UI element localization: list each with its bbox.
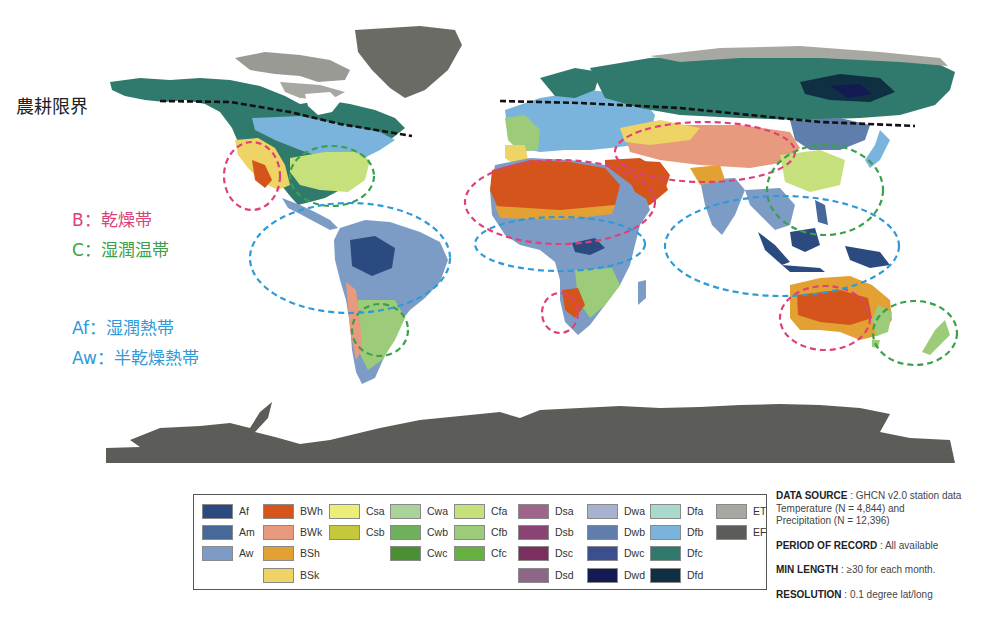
legend-label: Dfa	[687, 505, 703, 517]
legend-item-bsh: BSh	[263, 545, 320, 561]
legend-item-ef: EF	[716, 524, 766, 540]
legend-item-bwh: BWh	[263, 503, 323, 519]
legend-label: Dfd	[687, 569, 703, 581]
legend-label: Dsb	[555, 526, 574, 538]
legend-swatch	[202, 504, 233, 519]
legend-item-dfa: Dfa	[650, 503, 703, 519]
legend-item-dsb: Dsb	[518, 524, 574, 540]
legend-item-am: Am	[202, 524, 255, 540]
period-of-record: PERIOD OF RECORD : All available	[776, 540, 1008, 553]
climate-legend: AfAmAwBWhBWkBShBSkCsaCsbCwaCwbCwcCfaCfbC…	[193, 494, 767, 590]
legend-label: Dfb	[687, 526, 703, 538]
legend-label: Dsa	[555, 505, 574, 517]
legend-swatch	[716, 525, 747, 540]
legend-label: Cwb	[427, 526, 448, 538]
legend-swatch	[518, 546, 549, 561]
legend-item-et: ET	[716, 503, 766, 519]
legend-item-dfb: Dfb	[650, 524, 703, 540]
legend-swatch	[716, 504, 747, 519]
legend-swatch	[263, 568, 294, 583]
legend-label: BSh	[300, 547, 320, 559]
legend-swatch	[587, 568, 618, 583]
legend-item-dwc: Dwc	[587, 545, 644, 561]
data-info-panel: DATA SOURCE : GHCN v2.0 station data Tem…	[776, 490, 1008, 613]
madagascar	[638, 280, 646, 305]
resolution: RESOLUTION : 0.1 degree lat/long	[776, 589, 1008, 602]
legend-item-cwa: Cwa	[390, 503, 448, 519]
legend-swatch	[454, 525, 485, 540]
legend-label: Cwc	[427, 547, 447, 559]
legend-item-cfc: Cfc	[454, 545, 507, 561]
legend-item-af: Af	[202, 503, 249, 519]
legend-swatch	[202, 546, 233, 561]
legend-swatch	[650, 525, 681, 540]
legend-item-dsa: Dsa	[518, 503, 574, 519]
legend-swatch	[587, 504, 618, 519]
min-length: MIN LENGTH : ≥30 for each month.	[776, 564, 1008, 577]
legend-swatch	[518, 568, 549, 583]
legend-label: EF	[753, 526, 766, 538]
cultivation-limit-label: 農耕限界	[16, 92, 88, 118]
legend-label: Dwb	[624, 526, 645, 538]
india	[700, 178, 745, 235]
java	[782, 265, 825, 272]
legend-item-dwd: Dwd	[587, 567, 645, 583]
legend-swatch	[263, 525, 294, 540]
legend-swatch	[390, 504, 421, 519]
legend-item-csb: Csb	[329, 524, 385, 540]
legend-item-aw: Aw	[202, 545, 253, 561]
legend-item-cfb: Cfb	[454, 524, 507, 540]
philippines	[815, 200, 828, 225]
legend-swatch	[263, 504, 294, 519]
legend-item-bwk: BWk	[263, 524, 322, 540]
legend-item-dfd: Dfd	[650, 567, 703, 583]
legend-item-csa: Csa	[329, 503, 385, 519]
japan	[865, 130, 890, 168]
data-source: DATA SOURCE : GHCN v2.0 station data Tem…	[776, 490, 1008, 528]
af-zone-label: Af：湿潤熱帯	[72, 314, 174, 339]
legend-swatch	[518, 504, 549, 519]
east-asia-cfa	[780, 150, 845, 192]
legend-swatch	[518, 525, 549, 540]
legend-swatch	[329, 525, 360, 540]
legend-label: Dwa	[624, 505, 645, 517]
legend-label: Am	[239, 526, 255, 538]
legend-label: Dsd	[555, 569, 574, 581]
legend-swatch	[587, 546, 618, 561]
legend-item-dfc: Dfc	[650, 545, 703, 561]
c-zone-label: C：湿潤温帯	[72, 236, 169, 261]
legend-label: ET	[753, 505, 766, 517]
new-zealand	[922, 320, 950, 355]
legend-swatch	[202, 525, 233, 540]
legend-label: Aw	[239, 547, 253, 559]
legend-label: Af	[239, 505, 249, 517]
legend-label: Dwd	[624, 569, 645, 581]
legend-item-dwb: Dwb	[587, 524, 645, 540]
legend-label: Dfc	[687, 547, 703, 559]
sumatra	[758, 232, 790, 265]
legend-swatch	[390, 546, 421, 561]
legend-label: Csa	[366, 505, 385, 517]
legend-label: Cfb	[491, 526, 507, 538]
legend-swatch	[650, 568, 681, 583]
legend-label: Dsc	[555, 547, 573, 559]
legend-item-bsk: BSk	[263, 567, 319, 583]
legend-label: Cwa	[427, 505, 448, 517]
legend-item-cfa: Cfa	[454, 503, 507, 519]
east-asia-dw	[790, 118, 870, 150]
legend-item-cwb: Cwb	[390, 524, 448, 540]
legend-item-dwa: Dwa	[587, 503, 645, 519]
legend-item-cwc: Cwc	[390, 545, 447, 561]
legend-label: Cfc	[491, 547, 507, 559]
sahara	[490, 160, 620, 212]
legend-label: BWk	[300, 526, 322, 538]
arctic-islands	[235, 52, 350, 82]
legend-item-dsc: Dsc	[518, 545, 573, 561]
antarctica	[106, 402, 955, 463]
legend-swatch	[390, 525, 421, 540]
legend-swatch	[650, 504, 681, 519]
legend-swatch	[263, 546, 294, 561]
legend-swatch	[650, 546, 681, 561]
legend-swatch	[587, 525, 618, 540]
legend-label: Dwc	[624, 547, 644, 559]
